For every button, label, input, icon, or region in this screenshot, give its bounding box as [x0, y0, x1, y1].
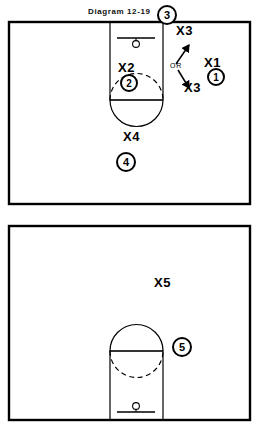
offense-marker-2-label: 2: [126, 78, 132, 89]
or-label: OR: [170, 62, 182, 69]
diagram-title: Diagram 12-19: [88, 7, 151, 16]
defense-marker-x3-bottom: X3: [184, 80, 201, 95]
defense-marker-x3-top: X3: [176, 23, 193, 38]
offense-marker-5-label: 5: [179, 341, 185, 353]
bottom-court-boundary: [9, 226, 250, 420]
offense-marker-4: 4: [116, 152, 136, 172]
diagram-page: Diagram 12-19 3 X3 X3 OR X1 1 X2 2 X4 4 …: [0, 0, 260, 426]
offense-marker-1-label: 1: [213, 72, 219, 83]
offense-marker-3: 3: [157, 5, 177, 25]
offense-marker-5: 5: [172, 337, 192, 357]
offense-marker-3-label: 3: [164, 9, 170, 21]
defense-marker-x2: X2: [118, 60, 135, 75]
offense-marker-1: 1: [207, 68, 225, 86]
offense-marker-2: 2: [120, 74, 138, 92]
offense-marker-4-label: 4: [123, 156, 129, 168]
top-court-boundary: [9, 22, 250, 204]
defense-marker-x5: X5: [154, 275, 171, 290]
defense-marker-x4: X4: [123, 129, 140, 144]
